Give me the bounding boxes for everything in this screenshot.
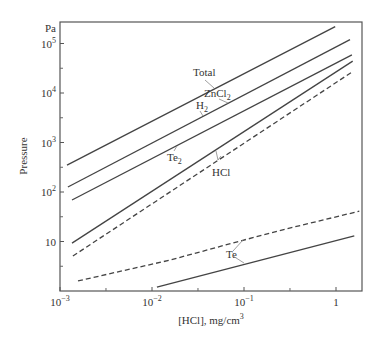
x-axis: 10−310−210−11 (50, 287, 339, 308)
pressure-vs-hcl-chart: 10−310−210−11 10102103104105 TotalZnCl2H… (0, 0, 381, 341)
annotation-leader (216, 151, 218, 160)
x-axis-title-sup: 3 (240, 312, 244, 321)
series-annotation: Te2 (167, 151, 182, 166)
series-annotation: Total (193, 66, 215, 78)
plot-frame (60, 22, 362, 291)
series-line-0 (67, 27, 335, 166)
x-axis-title-text: [HCl], mg/cm (178, 314, 240, 326)
series-annotation: ZnCl2 (204, 87, 231, 102)
series-annotation: H2 (196, 99, 208, 114)
series-line-4 (73, 72, 353, 256)
y-tick-label: 10 (45, 236, 57, 248)
series-annotation: HCl (212, 166, 230, 178)
y-unit-label: Pa (45, 22, 56, 34)
y-axis-title: Pressure (17, 137, 29, 174)
annotation-leader (200, 111, 203, 116)
x-axis-title: [HCl], mg/cm3 (178, 312, 244, 326)
series-line-1 (68, 40, 350, 187)
series-annotation: Te (226, 248, 237, 260)
y-tick-label: 104 (41, 85, 56, 99)
x-tick-label: 10−2 (142, 294, 162, 308)
y-tick-label: 102 (41, 184, 56, 198)
y-tick-label: 103 (41, 135, 56, 149)
x-tick-label: 10−1 (234, 294, 254, 308)
series-line-6 (157, 236, 354, 287)
x-tick-label: 10−3 (50, 294, 70, 308)
annotations: TotalZnCl2H2Te2HClTe (167, 66, 244, 263)
y-tick-label: 105 (41, 36, 56, 50)
x-tick-label: 1 (333, 296, 339, 308)
